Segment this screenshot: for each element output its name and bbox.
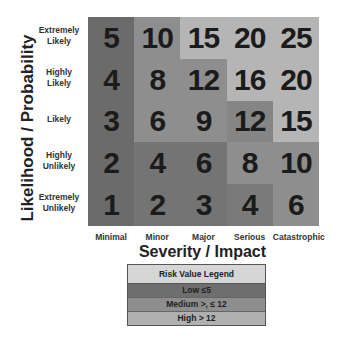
column-label: Major: [180, 232, 226, 242]
matrix-cell: 15: [180, 17, 226, 59]
matrix-cell: 20: [273, 59, 319, 101]
row-label: ExtremelyLikely: [32, 25, 86, 47]
matrix-cell: 4: [88, 59, 134, 101]
matrix-cell: 4: [134, 142, 180, 184]
matrix-cell: 8: [134, 59, 180, 101]
matrix-cell: 8: [227, 142, 273, 184]
matrix-cell: 2: [88, 142, 134, 184]
row-label: ExtremelyUnlikely: [32, 192, 86, 214]
column-label: Catastrophic: [273, 232, 319, 242]
matrix-cell: 20: [227, 17, 273, 59]
matrix-cell: 9: [180, 101, 226, 143]
legend-title: Risk Value Legend: [128, 265, 265, 284]
row-label: HighlyLikely: [32, 67, 86, 89]
matrix-cell: 2: [134, 184, 180, 226]
risk-legend: Risk Value Legend Low ≤5Medium >, ≤ 12Hi…: [127, 264, 266, 326]
matrix-cell: 12: [227, 101, 273, 143]
matrix-cell: 3: [180, 184, 226, 226]
matrix-cell: 5: [88, 17, 134, 59]
legend-entry-low: Low ≤5: [128, 284, 265, 298]
row-label: HighlyUnlikely: [32, 150, 86, 172]
column-label: Minor: [134, 232, 180, 242]
matrix-cell: 1: [88, 184, 134, 226]
column-label: Serious: [227, 232, 273, 242]
matrix-cell: 25: [273, 17, 319, 59]
matrix-cell: 6: [134, 101, 180, 143]
matrix-cell: 10: [134, 17, 180, 59]
row-label: Likely: [32, 114, 86, 125]
legend-entry-high: High > 12: [128, 312, 265, 325]
matrix-cell: 12: [180, 59, 226, 101]
matrix-cell: 6: [273, 184, 319, 226]
column-label: Minimal: [88, 232, 134, 242]
matrix-cell: 6: [180, 142, 226, 184]
x-axis-title: Severity / Impact: [0, 243, 345, 261]
matrix-cell: 16: [227, 59, 273, 101]
matrix-cell: 3: [88, 101, 134, 143]
matrix-cell: 15: [273, 101, 319, 143]
risk-matrix-grid: 51015202548121620369121524681012346: [88, 17, 319, 226]
matrix-cell: 4: [227, 184, 273, 226]
matrix-cell: 10: [273, 142, 319, 184]
legend-entry-medium: Medium >, ≤ 12: [128, 298, 265, 312]
